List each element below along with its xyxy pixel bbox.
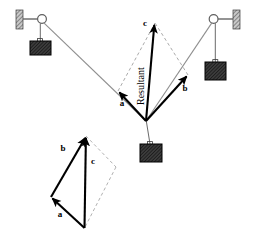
right-wall-bracket [233, 10, 240, 29]
vector-b-main [146, 77, 187, 122]
vector-c-main [146, 25, 154, 121]
vector-b-inset [51, 138, 85, 197]
left-rope-segment [44, 23, 146, 121]
right-pulley-assembly [205, 10, 240, 80]
vector-c-inset [85, 138, 86, 228]
center-weight-assembly [140, 121, 162, 162]
vector-b-inset-label: b [60, 143, 65, 153]
left-pulley-assembly [16, 10, 51, 55]
right-hanging-weight [205, 62, 226, 80]
resultant-label: Resultant [135, 67, 146, 105]
right-pulley-wheel [209, 15, 218, 24]
vector-a-inset-label: a [58, 209, 63, 219]
force-parallelogram-figure: a b c Resultant a b c [0, 0, 254, 239]
vector-b-main-label: b [182, 83, 187, 93]
rope-group [44, 23, 212, 121]
center-hanging-weight [140, 144, 162, 162]
inset-construction-bottom-right [85, 167, 117, 228]
main-vectors [120, 25, 187, 121]
inset-vectors [51, 138, 86, 228]
construction-line-b-to-c [155, 23, 188, 75]
diagram-canvas: a b c Resultant a b c [0, 0, 254, 239]
left-wall-bracket [16, 10, 23, 29]
vector-c-main-label: c [143, 18, 147, 28]
left-pulley-wheel [38, 15, 47, 24]
vector-a-main-label: a [120, 98, 125, 108]
vector-c-inset-label: c [91, 156, 95, 166]
right-rope-segment [146, 23, 212, 121]
center-weight-string [146, 121, 150, 144]
left-hanging-weight [30, 41, 51, 55]
inset-construction-lines [85, 136, 117, 228]
